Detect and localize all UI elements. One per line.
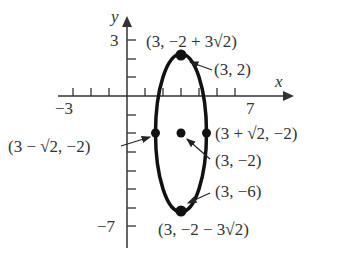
ellipse-diagram: y x 3 −7 −3 7 (3, −2 + 3√2) (3, 2) (3 + … [0,0,340,256]
leader-left-covertex [121,137,150,146]
y-axis [122,16,136,248]
label-focus-bottom: (3, −6) [215,182,261,201]
label-left-covertex: (3 − √2, −2) [8,137,90,156]
label-focus-top: (3, 2) [214,60,251,79]
x-axis [58,88,294,101]
point-bottom-vertex [176,206,187,217]
leader-focus-bottom [188,193,210,203]
point-left-covertex [151,129,160,138]
point-right-covertex [202,129,211,138]
x-axis-label: x [274,72,283,91]
y-axis-arrow-icon [122,16,132,27]
y-tick-label-3: 3 [110,31,119,50]
y-ticks [127,40,136,226]
label-right-covertex: (3 + √2, −2) [215,124,297,143]
x-tick-label-neg3: −3 [55,99,73,118]
point-center [177,129,186,138]
point-top-vertex [176,50,187,61]
y-axis-label: y [109,7,119,26]
x-axis-arrow-icon [283,91,294,101]
label-center: (3, −2) [215,151,261,170]
label-top-vertex: (3, −2 + 3√2) [146,32,237,51]
x-tick-label-7: 7 [246,99,255,118]
x-ticks [73,88,235,96]
y-tick-label-neg7: −7 [97,217,116,236]
label-bottom-vertex: (3, −2 − 3√2) [158,220,249,239]
